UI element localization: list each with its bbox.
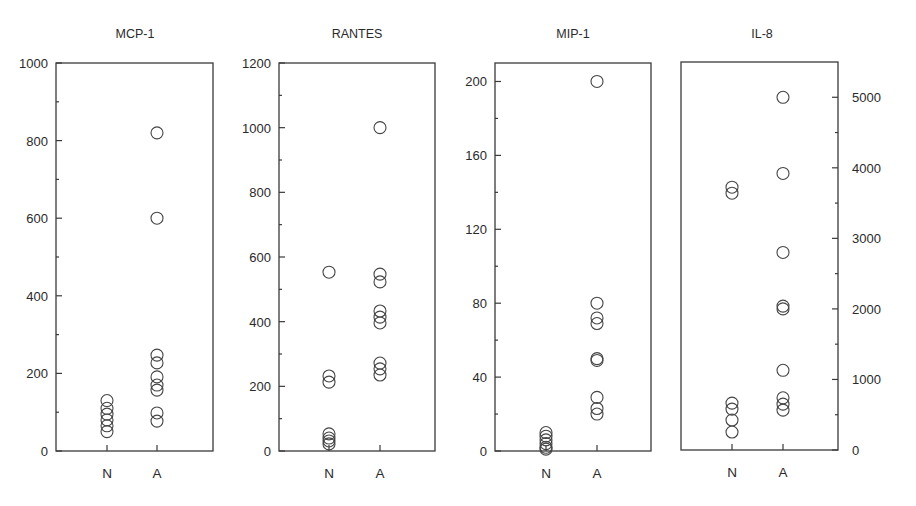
panel-mip-1: MIP-1 04080120160200NA <box>465 27 651 481</box>
y-tick-label: 0 <box>852 443 859 458</box>
y-tick-label: 0 <box>480 444 487 459</box>
data-point <box>591 75 603 87</box>
plot-frame <box>681 62 838 450</box>
data-point <box>777 167 789 179</box>
y-tick-label: 200 <box>26 366 48 381</box>
x-category-label: A <box>592 466 601 481</box>
panel-title: MIP-1 <box>556 27 589 41</box>
data-point <box>151 127 163 139</box>
series-a <box>777 91 789 416</box>
y-tick-label: 5000 <box>852 90 881 105</box>
x-category-label: N <box>324 466 334 481</box>
y-tick-label: 400 <box>249 315 271 330</box>
data-point <box>777 364 789 376</box>
x-category-label: A <box>375 466 384 481</box>
y-tick-label: 200 <box>249 379 271 394</box>
y-tick-label: 800 <box>249 185 271 200</box>
y-tick-label: 1000 <box>852 372 881 387</box>
y-tick-label: 600 <box>26 211 48 226</box>
y-tick-label: 1200 <box>242 56 271 71</box>
y-tick-label: 1000 <box>19 56 48 71</box>
series-n <box>101 395 113 438</box>
series-a <box>591 75 603 420</box>
chart-figure: MCP-1 02004006008001000NA RANTES 0200400… <box>0 0 916 506</box>
panel-title: MCP-1 <box>116 27 155 41</box>
data-point <box>777 300 789 312</box>
x-category-label: A <box>152 466 161 481</box>
y-tick-label: 400 <box>26 289 48 304</box>
panel-mcp-1: MCP-1 02004006008001000NA <box>19 27 213 481</box>
series-n <box>323 266 335 450</box>
y-tick-label: 1000 <box>242 121 271 136</box>
y-tick-label: 800 <box>26 134 48 149</box>
series-a <box>374 122 386 381</box>
series-n <box>726 181 738 438</box>
y-tick-label: 600 <box>249 250 271 265</box>
data-point <box>151 379 163 391</box>
data-point <box>777 91 789 103</box>
data-point <box>151 415 163 427</box>
y-tick-label: 4000 <box>852 161 881 176</box>
chart-canvas: MCP-1 02004006008001000NA RANTES 0200400… <box>0 0 916 506</box>
y-tick-label: 120 <box>465 222 487 237</box>
data-point <box>591 391 603 403</box>
data-point <box>323 266 335 278</box>
data-point <box>151 384 163 396</box>
data-point <box>374 122 386 134</box>
y-tick-label: 0 <box>264 444 271 459</box>
y-tick-label: 3000 <box>852 231 881 246</box>
x-category-label: N <box>102 466 112 481</box>
panel-rantes: RANTES 020040060080010001200NA <box>242 27 435 481</box>
y-tick-label: 160 <box>465 148 487 163</box>
panel-il-8: IL-8 010002000300040005000NA <box>681 27 881 480</box>
y-tick-label: 200 <box>465 74 487 89</box>
y-tick-label: 80 <box>473 296 487 311</box>
y-tick-label: 2000 <box>852 302 881 317</box>
data-point <box>151 357 163 369</box>
data-point <box>777 246 789 258</box>
x-category-label: N <box>541 466 551 481</box>
y-tick-label: 0 <box>41 444 48 459</box>
data-point <box>591 297 603 309</box>
data-point <box>726 426 738 438</box>
y-tick-label: 40 <box>473 370 487 385</box>
plot-frame <box>56 63 213 451</box>
data-point <box>777 303 789 315</box>
series-a <box>151 127 163 427</box>
panel-title: IL-8 <box>751 27 773 41</box>
data-point <box>151 212 163 224</box>
x-category-label: N <box>727 465 737 480</box>
x-category-label: A <box>778 465 787 480</box>
plot-frame <box>495 63 651 451</box>
data-point <box>374 276 386 288</box>
plot-frame <box>279 63 435 451</box>
data-point <box>726 414 738 426</box>
panel-title: RANTES <box>332 27 383 41</box>
